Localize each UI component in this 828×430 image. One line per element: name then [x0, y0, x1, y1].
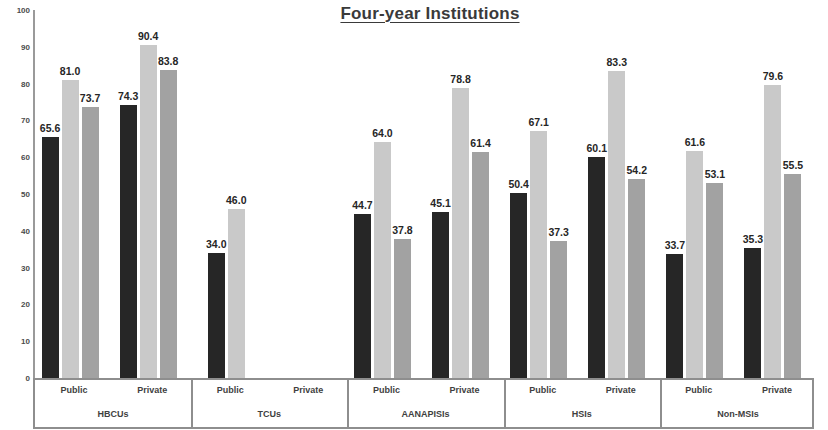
- y-axis-tick-10: 10: [4, 337, 30, 346]
- subgroup-label-hsis-private: Private: [606, 385, 636, 395]
- group-separator: [504, 380, 506, 429]
- subgroup-label-hbcus-public: Public: [61, 385, 88, 395]
- bar-value-label: 73.7: [80, 92, 100, 104]
- bar-value-label: 79.6: [763, 70, 783, 82]
- group-label-non-msis: Non-MSIs: [717, 409, 759, 419]
- category-label-band: HBCUsPublicPrivateTCUsPublicPrivateAANAP…: [33, 380, 814, 429]
- bar-aanapisis-public-series-2: [374, 142, 391, 378]
- bar-value-label: 61.6: [685, 136, 705, 148]
- group-separator: [660, 380, 662, 429]
- bar-hbcus-public-series-2: [62, 80, 79, 378]
- subgroup-label-non-msis-private: Private: [762, 385, 792, 395]
- bar-value-label: 54.2: [627, 164, 647, 176]
- subgroup-label-non-msis-public: Public: [685, 385, 712, 395]
- bar-value-label: 53.1: [705, 168, 725, 180]
- subgroup-label-aanapisis-private: Private: [450, 385, 480, 395]
- bar-value-label: 35.3: [743, 233, 763, 245]
- bar-non-msis-public-series-2: [686, 151, 703, 378]
- bar-hbcus-public-series-3: [82, 107, 99, 378]
- bar-value-label: 37.3: [548, 226, 568, 238]
- bar-non-msis-private-series-3: [784, 174, 801, 378]
- bar-value-label: 33.7: [665, 239, 685, 251]
- bar-tcus-public-series-2: [228, 209, 245, 378]
- y-axis-tick-70: 70: [4, 116, 30, 125]
- bar-value-label: 45.1: [430, 197, 450, 209]
- bar-value-label: 81.0: [60, 65, 80, 77]
- y-axis-tick-0: 0: [4, 374, 30, 383]
- bar-value-label: 34.0: [206, 238, 226, 250]
- subgroup-label-tcus-public: Public: [217, 385, 244, 395]
- chart-container: Four-year Institutions 01020304050607080…: [0, 0, 828, 430]
- subgroup-label-tcus-private: Private: [293, 385, 323, 395]
- bar-value-label: 90.4: [138, 30, 158, 42]
- subgroup-label-hbcus-private: Private: [137, 385, 167, 395]
- y-axis-tick-60: 60: [4, 153, 30, 162]
- subgroup-label-hsis-public: Public: [529, 385, 556, 395]
- bar-value-label: 74.3: [118, 90, 138, 102]
- y-axis-tick-90: 90: [4, 42, 30, 51]
- bar-non-msis-public-series-1: [666, 254, 683, 378]
- bar-hsis-private-series-1: [588, 157, 605, 378]
- bar-hbcus-private-series-1: [120, 105, 137, 378]
- group-label-hsis: HSIs: [572, 409, 592, 419]
- bar-aanapisis-private-series-3: [472, 152, 489, 378]
- plot-area: 65.681.073.774.390.483.834.046.044.764.0…: [33, 10, 814, 378]
- bar-aanapisis-public-series-3: [394, 239, 411, 378]
- bar-aanapisis-private-series-2: [452, 88, 469, 378]
- bar-value-label: 64.0: [372, 127, 392, 139]
- bar-aanapisis-private-series-1: [432, 212, 449, 378]
- bar-hsis-public-series-1: [510, 193, 527, 378]
- bar-value-label: 65.6: [40, 122, 60, 134]
- y-axis-tick-40: 40: [4, 226, 30, 235]
- y-axis-tick-100: 100: [4, 6, 30, 15]
- y-axis-tick-30: 30: [4, 263, 30, 272]
- bar-hsis-private-series-2: [608, 71, 625, 378]
- bar-value-label: 55.5: [783, 159, 803, 171]
- bar-value-label: 44.7: [352, 199, 372, 211]
- bar-hbcus-public-series-1: [42, 137, 59, 378]
- group-separator: [191, 380, 193, 429]
- bar-non-msis-private-series-2: [764, 85, 781, 378]
- bar-hbcus-private-series-2: [140, 45, 157, 378]
- bar-value-label: 61.4: [470, 137, 490, 149]
- bar-tcus-public-series-1: [208, 253, 225, 378]
- bar-hsis-private-series-3: [628, 179, 645, 378]
- bar-value-label: 60.1: [587, 142, 607, 154]
- y-axis-tick-20: 20: [4, 300, 30, 309]
- bar-value-label: 46.0: [226, 194, 246, 206]
- bar-value-label: 37.8: [392, 224, 412, 236]
- bar-value-label: 67.1: [528, 116, 548, 128]
- bar-non-msis-private-series-1: [744, 248, 761, 378]
- bar-hsis-public-series-2: [530, 131, 547, 378]
- group-separator: [347, 380, 349, 429]
- bar-value-label: 83.3: [607, 56, 627, 68]
- bar-non-msis-public-series-3: [706, 183, 723, 378]
- bar-value-label: 50.4: [508, 178, 528, 190]
- bar-hbcus-private-series-3: [160, 70, 177, 378]
- group-label-hbcus: HBCUs: [98, 409, 129, 419]
- subgroup-label-aanapisis-public: Public: [373, 385, 400, 395]
- y-axis-tick-50: 50: [4, 190, 30, 199]
- y-axis-tick-80: 80: [4, 79, 30, 88]
- bar-hsis-public-series-3: [550, 241, 567, 378]
- bar-aanapisis-public-series-1: [354, 214, 371, 378]
- bar-value-label: 78.8: [450, 73, 470, 85]
- group-label-aanapisis: AANAPISIs: [401, 409, 449, 419]
- y-axis-tick-labels: 0102030405060708090100: [0, 0, 30, 390]
- bar-value-label: 83.8: [158, 55, 178, 67]
- group-label-tcus: TCUs: [258, 409, 282, 419]
